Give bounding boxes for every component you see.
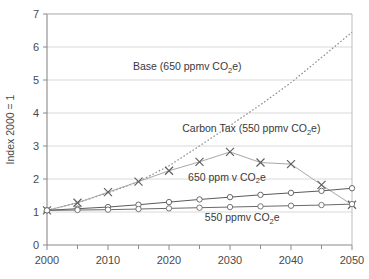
x-axis-ticks: 200020102020203020402050	[35, 245, 364, 266]
x-tick-label-2010: 2010	[96, 254, 120, 266]
y-tick-label-3: 3	[33, 140, 39, 152]
x-tick-label-2000: 2000	[35, 254, 59, 266]
series-marker-circle-2-6	[227, 194, 232, 199]
x-tick-label-2030: 2030	[218, 254, 242, 266]
carbon-tax-label: Carbon Tax (550 ppmv CO2e)	[182, 122, 320, 137]
chart-container: 200020102020203020402050 01234567 Base (…	[0, 0, 369, 279]
series-marker-x-1-4	[165, 167, 173, 175]
p550-label: 550 ppmv CO2e	[205, 211, 280, 226]
y-tick-label-0: 0	[33, 239, 39, 251]
series-marker-circle-3-5	[197, 205, 202, 210]
series-3	[44, 201, 354, 213]
y-tick-label-7: 7	[33, 8, 39, 20]
base-label: Base (650 ppmv CO2e)	[133, 60, 242, 75]
series-marker-circle-2-10	[349, 186, 354, 191]
series-marker-circle-3-1	[75, 207, 80, 212]
series-annotations: Base (650 ppmv CO2e)Carbon Tax (550 ppmv…	[133, 60, 320, 226]
y-tick-label-2: 2	[33, 173, 39, 185]
series-marker-circle-3-3	[136, 206, 141, 211]
series-marker-circle-3-4	[166, 206, 171, 211]
x-tick-label-2020: 2020	[157, 254, 181, 266]
series-marker-circle-2-9	[319, 188, 324, 193]
line-chart: 200020102020203020402050 01234567 Base (…	[0, 0, 369, 279]
series-marker-circle-2-5	[197, 197, 202, 202]
series-marker-x-1-5	[196, 158, 204, 166]
series-marker-circle-3-6	[227, 204, 232, 209]
x-tick-label-2050: 2050	[340, 254, 364, 266]
series-marker-x-1-6	[226, 148, 234, 156]
series-marker-circle-3-8	[288, 203, 293, 208]
y-tick-label-6: 6	[33, 41, 39, 53]
axis-titles: Index 2000 = 1	[4, 94, 16, 164]
y-tick-label-1: 1	[33, 206, 39, 218]
y-tick-label-4: 4	[33, 107, 39, 119]
y-axis-title: Index 2000 = 1	[4, 94, 16, 164]
series-marker-circle-3-7	[258, 204, 263, 209]
y-axis-ticks: 01234567	[33, 8, 47, 251]
series-marker-circle-2-4	[166, 199, 171, 204]
series-marker-circle-3-0	[44, 208, 49, 213]
series-marker-circle-3-10	[349, 201, 354, 206]
series-marker-circle-3-9	[319, 202, 324, 207]
series-marker-circle-3-2	[105, 207, 110, 212]
y-tick-label-5: 5	[33, 74, 39, 86]
p650-label: 650 ppm v CO2e	[188, 171, 266, 186]
series-marker-circle-2-7	[258, 192, 263, 197]
series-marker-circle-2-8	[288, 190, 293, 195]
x-tick-label-2040: 2040	[279, 254, 303, 266]
